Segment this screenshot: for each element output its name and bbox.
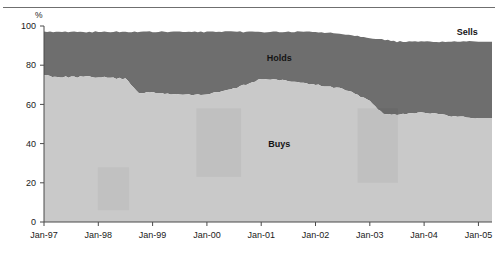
x-tick-label: Jan-05 (465, 230, 493, 240)
x-tick-label: Jan-00 (193, 230, 221, 240)
series-label-buys: Buys (268, 139, 290, 149)
y-tick-label: 80 (26, 60, 36, 70)
x-tick-label: Jan-97 (30, 230, 58, 240)
x-tick-label: Jan-04 (410, 230, 438, 240)
y-axis-ticks: 020406080100 (21, 21, 44, 227)
scan-artifact (196, 108, 241, 177)
y-tick-label: 60 (26, 100, 36, 110)
x-tick-label: Jan-99 (139, 230, 167, 240)
y-tick-label: 100 (21, 21, 36, 31)
x-tick-label: Jan-02 (302, 230, 330, 240)
scan-artifact (358, 108, 398, 182)
series-label-sells: Sells (457, 27, 478, 37)
x-tick-label: Jan-03 (356, 230, 384, 240)
y-axis-unit-label: % (35, 10, 43, 20)
y-tick-label: 40 (26, 139, 36, 149)
y-tick-label: 20 (26, 178, 36, 188)
series-label-holds: Holds (267, 53, 292, 63)
x-axis-ticks: Jan-97Jan-98Jan-99Jan-00Jan-01Jan-02Jan-… (30, 222, 492, 240)
scan-artifact (98, 167, 129, 210)
stacked-area-chart: 020406080100%Jan-97Jan-98Jan-99Jan-00Jan… (0, 0, 498, 257)
x-tick-label: Jan-01 (247, 230, 275, 240)
x-tick-label: Jan-98 (85, 230, 113, 240)
chart-canvas: 020406080100%Jan-97Jan-98Jan-99Jan-00Jan… (0, 0, 498, 257)
y-tick-label: 0 (31, 217, 36, 227)
